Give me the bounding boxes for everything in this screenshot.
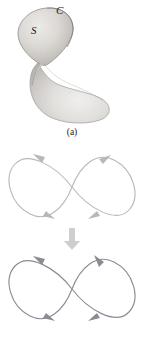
figure-eight-bottom-path [9,259,135,318]
panel-b-curves: (b) [0,142,144,350]
transform-down-arrow [64,228,80,250]
figure-eight-bottom [9,259,135,318]
figure-eight-top [9,157,135,216]
surface-upper-lobe [18,8,73,66]
arrowhead-bottom-fig-bottom-right [88,313,100,321]
boundary-curve-label-c: C [56,5,63,16]
figure-eight-top-path [9,157,135,216]
arrowhead-top-left [33,154,45,163]
surface-label-s: S [31,25,37,36]
arrowhead-bottom-fig-top-left [33,256,45,265]
panel-a-caption: (a) [0,128,144,138]
arrowhead-bottom-right [88,211,100,219]
arrowhead-top-right [99,155,111,164]
figure-root: S C (a) [0,0,144,350]
surface-illustration [0,0,144,142]
surface-lower-lobe [30,63,109,123]
panel-a-surface: S C (a) [0,0,144,142]
oriented-curves-illustration [0,142,144,350]
